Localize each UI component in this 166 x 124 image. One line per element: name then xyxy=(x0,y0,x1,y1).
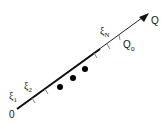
axis-thick-segment xyxy=(17,49,100,109)
q0-label: Qo xyxy=(123,39,135,52)
data-dot xyxy=(57,84,63,90)
tick xyxy=(45,89,48,94)
data-dot xyxy=(70,75,76,81)
tick xyxy=(119,35,120,40)
tick xyxy=(32,98,35,103)
xi-n-label: ξN xyxy=(100,25,110,39)
tick xyxy=(94,53,97,58)
data-dot xyxy=(82,66,88,72)
tick-marks xyxy=(32,35,120,103)
origin-label: 0 xyxy=(9,109,15,120)
diagram-canvas: 0 Q ξ1 ξ2 ξN Qo xyxy=(0,0,166,124)
arrowhead-icon xyxy=(139,13,149,22)
xi-2-label: ξ2 xyxy=(24,80,32,94)
xi-1-label: ξ1 xyxy=(9,90,17,104)
axis-label: Q xyxy=(151,15,159,26)
tick xyxy=(107,44,110,49)
